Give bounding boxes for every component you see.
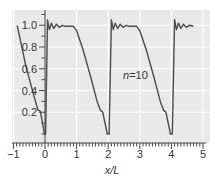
y-tick-label: 0.8 (22, 41, 37, 53)
n-annotation: n=10 (123, 69, 148, 81)
x-tick-label: −1 (7, 148, 20, 160)
x-tick-label: 4 (168, 148, 174, 160)
y-tick-label: 1.0 (22, 19, 37, 31)
chart: −1012345 0.20.40.60.81.0 x/L n=10 (0, 0, 215, 180)
x-tick-labels: −1012345 (7, 148, 206, 160)
y-tick-label: 0.6 (22, 63, 37, 75)
y-tick-label: 0.4 (22, 85, 37, 97)
y-tick-label: 0.2 (22, 106, 37, 118)
x-tick-label: 1 (74, 148, 80, 160)
x-tick-label: 0 (42, 148, 48, 160)
x-tick-label: 5 (200, 148, 206, 160)
x-tick-label: 2 (105, 148, 111, 160)
x-tick-label: 3 (137, 148, 143, 160)
x-axis-title: x/L (104, 164, 120, 176)
